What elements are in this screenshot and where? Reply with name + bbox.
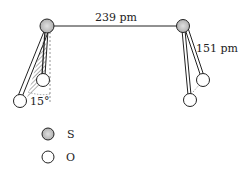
sulfur-atom-left [40,19,54,33]
oxygen-atom [37,74,50,87]
s2o4-structure-diagram: 239 pm 151 pm 15° S O [0,0,244,180]
s-s-bond-length-label: 239 pm [95,11,138,24]
s-o-bond [185,30,191,95]
angle-label: 15° [30,95,50,108]
sulfur-atom-right [177,20,190,33]
oxygen-atom [197,74,210,87]
legend-oxygen-swatch [42,151,54,163]
oxygen-atom [184,94,197,107]
legend-sulfur-label: S [67,128,75,141]
s-o-bond-length-label: 151 pm [196,42,239,55]
legend-oxygen-label: O [66,151,75,164]
s-o-bond [182,30,188,95]
legend: S O [42,128,75,164]
oxygen-atom [14,95,27,108]
legend-sulfur-swatch [42,128,54,140]
